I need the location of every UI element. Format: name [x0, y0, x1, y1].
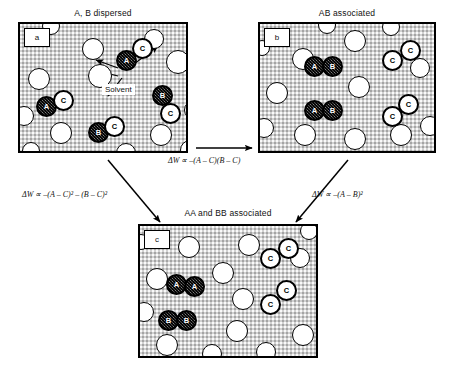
panel-c-title: AA and BB associated	[138, 208, 318, 218]
molecule-b: B	[176, 310, 197, 331]
solvent-label: Solvent	[102, 84, 135, 95]
solvent-circle	[294, 124, 316, 146]
molecule-a: A	[184, 276, 205, 297]
solvent-circle	[238, 234, 260, 256]
equation-a-to-c-text: ΔW ∝ –(A – C)² – (B – C)²	[22, 190, 107, 199]
solvent-circle	[202, 344, 222, 358]
solvent-circle	[232, 288, 254, 310]
solvent-circle	[146, 268, 168, 290]
panel-a: ACACBCBC a Solvent	[18, 22, 188, 153]
panel-a-title: A, B dispersed	[18, 8, 188, 18]
equation-a-to-b-text: ΔW ∝ –(A – C)(B – C)	[168, 156, 240, 165]
panel-c: AABBCCCC c	[138, 224, 318, 358]
solvent-circle	[318, 22, 336, 34]
solvent-circle	[156, 334, 178, 356]
molecule-c: C	[400, 40, 421, 61]
solvent-circle	[138, 302, 154, 322]
solvent-circle	[22, 142, 40, 153]
molecule-b: B	[322, 56, 343, 77]
molecule-c: C	[53, 90, 74, 111]
solvent-circle	[292, 324, 314, 346]
solvent-circle	[184, 100, 188, 120]
molecule-c: C	[104, 116, 125, 137]
solvent-circle	[420, 116, 436, 136]
panel-b-tag: b	[264, 28, 290, 47]
solvent-circle	[344, 30, 366, 52]
solvent-circle	[226, 320, 248, 342]
solvent-circle	[348, 76, 370, 98]
figure-canvas: A, B dispersed ACACBCBC a Solvent AB ass…	[0, 0, 452, 374]
molecule-c: C	[398, 94, 419, 115]
panel-b: ABABCCCC b	[258, 22, 436, 153]
solvent-circle	[82, 38, 104, 60]
solvent-circle	[300, 224, 318, 240]
solvent-circle	[116, 143, 136, 153]
solvent-circle	[266, 82, 288, 104]
equation-b-to-c-text: ΔW ∝ –(A – B)²	[312, 190, 363, 199]
solvent-circle	[410, 58, 430, 78]
molecule-c: C	[160, 103, 181, 124]
panel-b-title: AB associated	[258, 8, 436, 18]
solvent-circle	[28, 68, 50, 90]
molecule-b: B	[322, 100, 343, 121]
molecule-c: C	[278, 238, 299, 259]
solvent-circle	[50, 122, 72, 144]
panel-c-tag: c	[144, 230, 170, 249]
solvent-circle	[178, 236, 200, 258]
solvent-circle	[390, 124, 412, 146]
solvent-circle	[344, 128, 366, 150]
equation-a-to-b: ΔW ∝ –(A – C)(B – C)	[168, 156, 240, 165]
solvent-circle	[150, 124, 172, 146]
solvent-circle	[180, 140, 188, 153]
solvent-circle	[166, 50, 188, 74]
solvent-circle	[18, 106, 34, 126]
solvent-circle	[258, 118, 274, 138]
solvent-circle	[382, 22, 400, 36]
equation-a-to-c: ΔW ∝ –(A – C)² – (B – C)²	[22, 190, 107, 199]
solvent-circle	[256, 342, 276, 358]
molecule-c: C	[276, 280, 297, 301]
equation-b-to-c: ΔW ∝ –(A – B)²	[312, 190, 363, 199]
panel-a-tag: a	[24, 28, 50, 47]
molecule-c: C	[132, 38, 153, 59]
solvent-circle	[212, 262, 234, 284]
